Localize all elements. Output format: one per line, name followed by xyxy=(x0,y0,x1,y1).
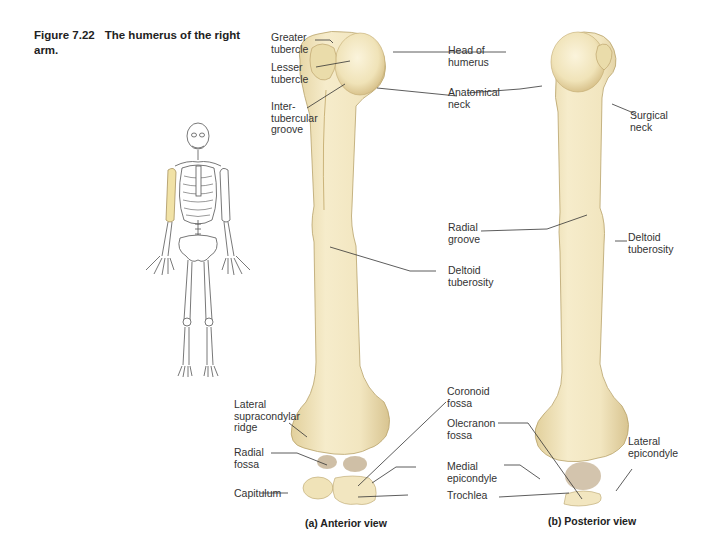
label-medial-epicondyle: Medial epicondyle xyxy=(447,461,497,484)
label-olecranon-fossa: Olecranon fossa xyxy=(447,418,495,441)
label-capitulum: Capitulum xyxy=(234,488,281,500)
skeleton-inset xyxy=(146,123,250,377)
label-surgical-neck: Surgical neck xyxy=(630,110,668,133)
label-anatomical-neck: Anatomical neck xyxy=(448,87,500,110)
label-lateral-supracondylar-ridge: Lateral supracondylar ridge xyxy=(234,399,300,434)
label-trochlea: Trochlea xyxy=(447,490,487,502)
label-radial-groove: Radial groove xyxy=(448,222,480,245)
label-deltoid-tuberosity-posterior: Deltoid tuberosity xyxy=(628,232,674,255)
label-lesser-tubercle: Lesser tubercle xyxy=(271,62,308,85)
label-head-of-humerus: Head of humerus xyxy=(448,45,489,68)
posterior-humerus xyxy=(535,32,628,506)
humerus-illustration xyxy=(0,0,715,543)
label-deltoid-tuberosity-anterior: Deltoid tuberosity xyxy=(448,265,494,288)
label-lateral-epicondyle: Lateral epicondyle xyxy=(628,436,678,459)
highlighted-humerus xyxy=(166,168,176,222)
label-coronoid-fossa: Coronoid fossa xyxy=(447,386,490,409)
anterior-view-label: (a) Anterior view xyxy=(305,517,387,529)
label-greater-tubercle: Greater tubercle xyxy=(271,32,308,55)
label-intertubercular-groove: Inter- tubercular groove xyxy=(271,101,318,136)
posterior-view-label: (b) Posterior view xyxy=(548,515,636,527)
label-radial-fossa: Radial fossa xyxy=(234,447,264,470)
